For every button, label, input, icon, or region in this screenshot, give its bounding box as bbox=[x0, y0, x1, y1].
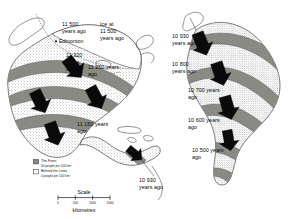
scale-tick-label-1000: 1000 bbox=[89, 201, 96, 205]
label-sa-10930-line2: years ago bbox=[172, 40, 196, 46]
scale-tick-label-500: 500 bbox=[73, 201, 79, 205]
label-sa-10700-line2: ago bbox=[188, 94, 197, 100]
label-na-10930-line1: 10 930 bbox=[139, 177, 156, 183]
label-sa-10600-line2: ago bbox=[188, 124, 197, 130]
label-na-11250-line1: 11 250 years bbox=[88, 64, 120, 70]
scale-title: Scale bbox=[78, 189, 91, 195]
label-na-11320-line3: ago bbox=[66, 66, 75, 72]
label-sa-10500-line1: 10 500 years bbox=[192, 147, 224, 153]
scale-tick-label-0: 0 bbox=[57, 201, 59, 205]
label-sa-10600-line1: 10 600 years bbox=[188, 117, 220, 123]
label-sa-10800-line2: years ago bbox=[172, 68, 196, 74]
label-na-10930-line2: years ago bbox=[139, 184, 163, 190]
label-na-11500-line2: years ago bbox=[62, 28, 86, 34]
legend-swatch-behind-the-lines bbox=[34, 170, 39, 174]
scale-tick-label-1500: 1500 bbox=[106, 201, 113, 205]
label-sa-10700-line1: 10 700 years bbox=[188, 87, 220, 93]
label-na-11150-line1: 11 150 years bbox=[77, 121, 109, 127]
label-na-ice-line3: years ago bbox=[100, 35, 124, 41]
scale-unit-label: kilometres bbox=[73, 207, 96, 213]
label-na-ice-line1: Ice at bbox=[100, 21, 114, 27]
label-na-11320-line1: 11 320 bbox=[66, 52, 82, 58]
label-na-ice-line2: 11 500 bbox=[100, 28, 116, 34]
city-dot-icon bbox=[55, 40, 57, 42]
figure-root: 11 500 years ago Ice at 11 500 years ago… bbox=[0, 0, 308, 219]
legend-swatch-the-front bbox=[34, 160, 39, 164]
label-na-11500-line1: 11 500 bbox=[62, 21, 78, 27]
legend-subtitle-the-front: 40 people per 100 km² bbox=[41, 164, 72, 168]
label-sa-10930-line1: 10 930 bbox=[172, 33, 189, 39]
label-sa-10800-line1: 10 800 bbox=[172, 61, 189, 67]
map-figure: 11 500 years ago Ice at 11 500 years ago… bbox=[0, 0, 308, 219]
label-na-edmonton: Edmonton bbox=[59, 38, 84, 44]
label-na-11320-line2: years bbox=[66, 59, 80, 65]
legend-subtitle-behind-the-lines: 4 people per 100 km² bbox=[41, 174, 70, 178]
label-sa-10500-line2: ago bbox=[192, 154, 201, 160]
label-na-11250-line2: ago bbox=[88, 71, 97, 77]
label-na-11150-line2: ago bbox=[77, 128, 86, 134]
